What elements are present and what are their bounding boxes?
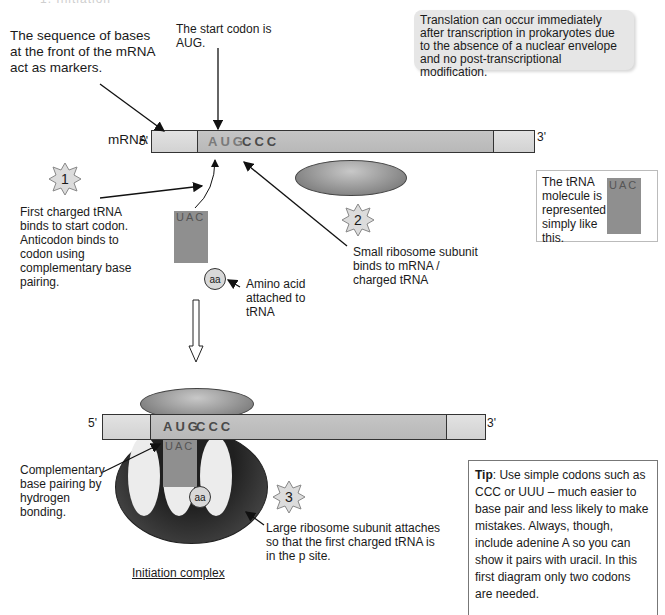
step-1-number: 1 — [48, 171, 82, 187]
info-box: Translation can occur immediately after … — [414, 10, 634, 70]
ribosome-site-e — [128, 436, 160, 516]
tip-box: Tip: Use simple codons such as CCC or UU… — [468, 460, 658, 615]
step-3-badge: 3 — [272, 480, 306, 514]
cut-off-header: 1. Initiation — [40, 0, 111, 6]
anticodon-bottom: UAC — [163, 440, 197, 452]
legend-anticodon: UAC — [607, 178, 641, 192]
five-prime-label-bottom: 5' — [88, 416, 97, 430]
step-2-text: Small ribosome subunit binds to mRNA / c… — [353, 245, 483, 287]
mrna-trailer-segment — [493, 130, 535, 153]
mrna-leader-segment — [151, 130, 199, 153]
curved-arrow-trna — [195, 160, 215, 208]
step-3-number: 3 — [272, 489, 306, 505]
arrow-amino-acid — [228, 280, 240, 287]
three-prime-label: 3' — [537, 130, 546, 144]
start-codon-note: The start codon is AUG. — [176, 22, 276, 50]
trna-in-p-site: UAC — [163, 440, 197, 487]
codon-next: CCC — [242, 134, 279, 149]
legend-trna: UAC — [607, 178, 641, 234]
mrna-trailer-segment-bottom — [446, 414, 486, 440]
tip-label: Tip — [475, 468, 493, 482]
initiation-complex-caption: Initiation complex — [132, 566, 225, 580]
arrow-step-1 — [100, 186, 202, 198]
codon-start: AUG — [208, 134, 246, 149]
mrna-coding-segment: AUG CCC — [197, 130, 494, 153]
hollow-down-arrow — [189, 300, 203, 362]
legend-text: The tRNA molecule is represented simply … — [542, 175, 612, 245]
mrna-leader-segment-bottom — [102, 414, 152, 440]
five-prime-label: 5' — [139, 134, 148, 148]
sequence-markers-note: The sequence of bases at the front of th… — [10, 28, 160, 76]
anticodon: UAC — [174, 211, 208, 223]
codon-next-bottom: CCC — [196, 419, 233, 434]
step-2-badge: 2 — [341, 203, 375, 237]
amino-acid-bottom: aa — [189, 486, 211, 508]
complementary-pairing-note: Complementary base pairing by hydrogen b… — [20, 463, 110, 519]
amino-acid-note: Amino acid attached to tRNA — [246, 277, 316, 319]
mrna-coding-segment-bottom: AUG CCC — [150, 414, 448, 440]
trna-molecule: UAC — [174, 211, 208, 263]
tip-text: : Use simple codons such as CCC or UUU –… — [475, 468, 648, 601]
three-prime-label-bottom: 3' — [487, 416, 496, 430]
small-ribosome-subunit — [295, 160, 407, 196]
step-1-text: First charged tRNA binds to start codon.… — [20, 205, 140, 289]
step-2-number: 2 — [341, 212, 375, 228]
step-1-badge: 1 — [48, 162, 82, 196]
arrow-to-leader — [100, 84, 164, 131]
amino-acid: aa — [204, 268, 226, 290]
step-3-text: Large ribosome subunit attaches so that … — [266, 521, 446, 563]
trna-legend-box: The tRNA molecule is represented simply … — [536, 170, 658, 242]
